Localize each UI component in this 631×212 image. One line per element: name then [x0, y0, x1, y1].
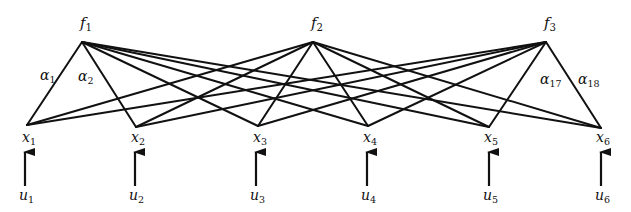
node-label-f2: f2 [310, 14, 323, 33]
node-label-x1: x1 [22, 129, 36, 147]
node-label-x6: x6 [596, 129, 610, 147]
edges [27, 42, 601, 128]
input-label-u6: u6 [595, 187, 610, 205]
edge-label-alpha-18: α18 [578, 71, 600, 89]
edge-label-alpha-17: α17 [540, 71, 562, 89]
edge-alpha-7 [27, 42, 313, 125]
node-label-f1: f1 [79, 14, 92, 33]
node-label-x2: x2 [131, 129, 145, 147]
input-arrows [25, 152, 601, 186]
edge-alpha-15 [258, 42, 546, 126]
input-label-u1: u1 [19, 187, 34, 205]
network-diagram: f1f2f3x1x2x3x4x5x6u1u2u3u4u5u6α1α2α17α18 [0, 0, 631, 212]
node-label-x3: x3 [253, 129, 267, 147]
edge-label-alpha-2: α2 [78, 68, 94, 86]
node-label-f3: f3 [543, 14, 556, 33]
edge-alpha-16 [368, 42, 546, 126]
node-label-x5: x5 [484, 129, 498, 147]
input-label-u4: u4 [361, 187, 376, 205]
edge-label-alpha-1: α1 [40, 67, 56, 85]
input-label-u2: u2 [129, 187, 144, 205]
node-label-x4: x4 [363, 129, 377, 147]
input-label-u5: u5 [483, 187, 498, 205]
input-label-u3: u3 [250, 187, 265, 205]
